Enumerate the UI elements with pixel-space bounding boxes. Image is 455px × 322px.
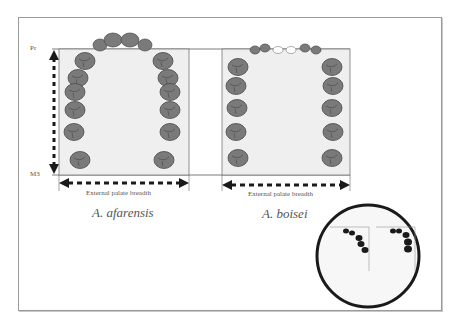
boisei-breadth-arrow: [222, 175, 350, 191]
afarensis-species-label: A. afarensis: [92, 205, 154, 221]
pr-label: Pr: [30, 44, 36, 52]
palate-length-arrow: [49, 50, 59, 174]
boisei-species-label: A. boisei: [262, 206, 308, 222]
comparison-inset: [317, 205, 419, 307]
palate-diagram: [0, 0, 455, 322]
boisei-palate: [222, 44, 350, 175]
afarensis-breadth-label: External palate breadth: [86, 189, 151, 197]
boisei-breadth-label: External palate breadth: [248, 190, 313, 198]
afarensis-palate: [59, 33, 189, 175]
m3-label: M3: [30, 170, 40, 178]
